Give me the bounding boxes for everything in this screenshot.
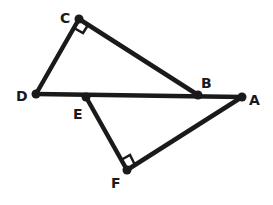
segment-DC <box>36 19 79 94</box>
point-E <box>82 93 91 102</box>
segment-DA <box>36 94 242 97</box>
point-D <box>32 90 41 99</box>
point-A <box>238 93 247 102</box>
label-F: F <box>111 175 121 191</box>
segment-FA <box>127 97 242 170</box>
label-D: D <box>16 88 28 104</box>
point-F <box>123 166 132 175</box>
geometry-diagram: A B C D E F <box>0 0 273 205</box>
label-E: E <box>73 106 83 122</box>
label-A: A <box>249 92 260 108</box>
segment-CB <box>79 19 198 95</box>
point-C <box>75 15 84 24</box>
label-B: B <box>201 75 212 91</box>
label-C: C <box>60 10 70 26</box>
point-B <box>194 91 203 100</box>
